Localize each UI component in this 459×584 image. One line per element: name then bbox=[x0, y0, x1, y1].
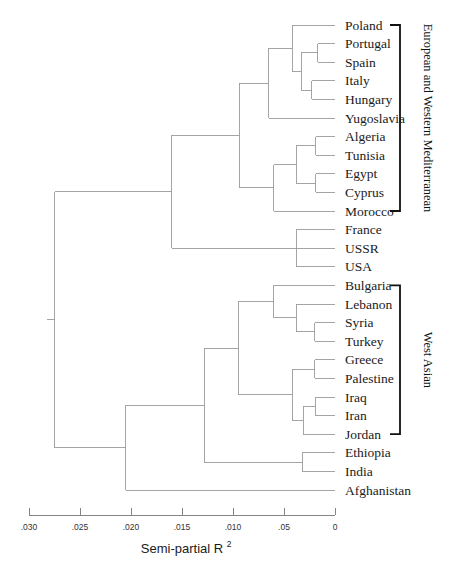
x-axis-tick-label: 0 bbox=[333, 522, 338, 532]
dendrogram-figure: PolandPortugalSpainItalyHungaryYugoslavi… bbox=[0, 0, 459, 584]
x-axis-tick-label: .015 bbox=[174, 522, 191, 532]
leaf-label-usa: USA bbox=[345, 259, 372, 274]
group-bracket-label-west-asian: West Asian bbox=[421, 332, 435, 389]
leaf-label-india: India bbox=[345, 464, 373, 479]
leaf-label-yugoslavia: Yugoslavia bbox=[345, 111, 405, 126]
leaf-label-greece: Greece bbox=[345, 352, 383, 367]
leaf-label-iraq: Iraq bbox=[345, 390, 367, 405]
x-axis-title: Semi-partial R bbox=[141, 541, 223, 556]
dendrogram-canvas: PolandPortugalSpainItalyHungaryYugoslavi… bbox=[0, 0, 459, 584]
leaf-label-cyprus: Cyprus bbox=[345, 185, 384, 200]
leaf-label-algeria: Algeria bbox=[345, 129, 385, 144]
x-axis-group: .030.025.020.015.010.050Semi-partial R2 bbox=[21, 508, 338, 556]
leaf-label-hungary: Hungary bbox=[345, 92, 392, 107]
leaf-label-ethiopia: Ethiopia bbox=[345, 445, 391, 460]
leaf-label-morocco: Morocco bbox=[345, 204, 394, 219]
leaf-label-poland: Poland bbox=[345, 18, 383, 33]
leaf-label-spain: Spain bbox=[345, 55, 376, 70]
x-axis-title-superscript: 2 bbox=[227, 539, 232, 549]
leaf-label-afghanistan: Afghanistan bbox=[345, 483, 411, 498]
leaf-label-ussr: USSR bbox=[345, 241, 379, 256]
group-brackets-group: European and Western MediterraneanWest A… bbox=[390, 24, 435, 435]
x-axis-tick-label: .025 bbox=[72, 522, 89, 532]
leaf-labels-group: PolandPortugalSpainItalyHungaryYugoslavi… bbox=[345, 18, 411, 498]
leaf-label-italy: Italy bbox=[345, 73, 370, 88]
leaf-label-lebanon: Lebanon bbox=[345, 297, 392, 312]
leaf-label-syria: Syria bbox=[345, 315, 374, 330]
x-axis-tick-label: .030 bbox=[21, 522, 38, 532]
x-axis-tick-label: .05 bbox=[278, 522, 290, 532]
leaf-label-palestine: Palestine bbox=[345, 371, 394, 386]
leaf-label-bulgaria: Bulgaria bbox=[345, 278, 392, 293]
x-axis-tick-label: .010 bbox=[225, 522, 242, 532]
leaf-label-france: France bbox=[345, 222, 382, 237]
leaf-label-tunisia: Tunisia bbox=[345, 148, 385, 163]
leaf-label-jordan: Jordan bbox=[345, 427, 381, 442]
leaf-label-portugal: Portugal bbox=[345, 36, 391, 51]
x-axis-tick-label: .020 bbox=[123, 522, 140, 532]
leaf-label-iran: Iran bbox=[345, 408, 367, 423]
leaf-label-egypt: Egypt bbox=[345, 166, 377, 181]
group-bracket-label-european-and-western-mediterranean: European and Western Mediterranean bbox=[421, 24, 435, 213]
leaf-label-turkey: Turkey bbox=[345, 334, 384, 349]
branch-lines-group bbox=[47, 25, 336, 490]
